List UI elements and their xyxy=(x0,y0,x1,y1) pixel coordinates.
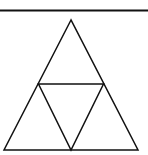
inner-inverted-triangle xyxy=(39,84,104,150)
outer-triangle xyxy=(4,20,138,150)
triangle-diagram xyxy=(0,0,148,155)
